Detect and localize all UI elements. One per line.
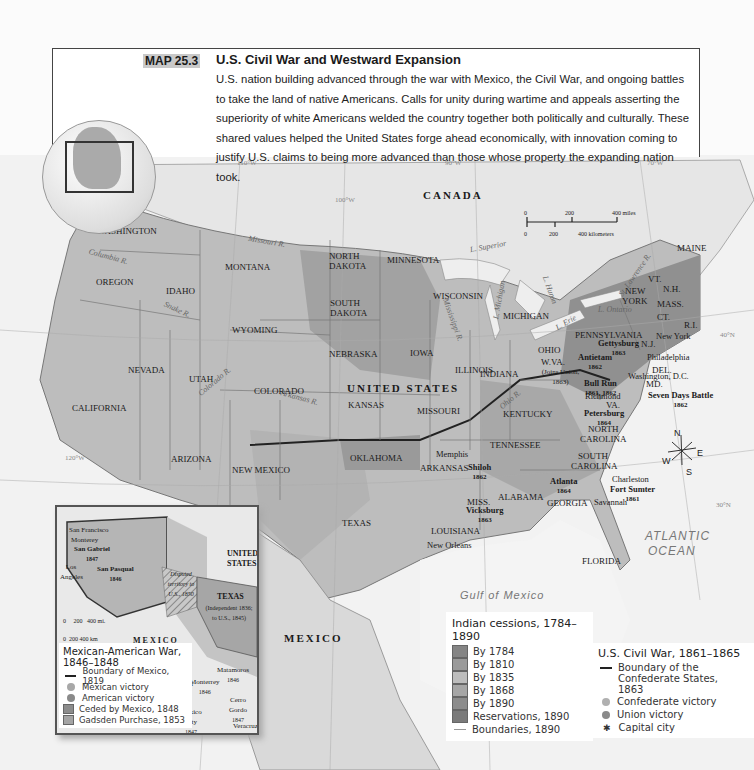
state-kentucky: KENTUCKY (503, 409, 553, 419)
inset-legend-american-victory: American victory (63, 692, 188, 703)
state-rhode-island: R.I. (684, 320, 698, 330)
state-colorado: COLORADO (254, 386, 304, 396)
state-oregon: OREGON (96, 277, 134, 287)
inset-san-gabriel: San Gabriel1847 (74, 544, 110, 564)
label-gulf-of-mexico: Gulf of Mexico (460, 590, 544, 600)
state-indiana: INDIANA (480, 369, 519, 379)
inset-legend-boundary: Boundary of Mexico, 1819 (63, 670, 188, 681)
gadsden-swatch (63, 715, 74, 725)
inset-monterrey: Monterrey1846 (190, 677, 220, 697)
inset-matamoros: Matamoros1846 (217, 665, 249, 685)
legend-cession-1784: By 1784 (452, 645, 587, 658)
meridian-90w: 90°W (445, 158, 461, 168)
state-new-mexico: NEW MEXICO (232, 465, 290, 475)
legend-boundaries: Boundaries, 1890 (452, 723, 587, 736)
parallel-40n: 40°N (720, 330, 735, 340)
legend-indian-cessions: Indian cessions, 1784–1890 By 1784 By 18… (446, 612, 593, 741)
legend-reservations: Reservations, 1890 (452, 710, 587, 723)
state-massachusetts: MASS. (657, 299, 684, 309)
state-new-york-line2: YORK (622, 296, 648, 306)
map-description: U.S. nation building advanced through th… (216, 70, 696, 187)
scale-km-400: 400 kilometers (578, 229, 614, 239)
city-new-york: New York (656, 331, 690, 341)
legend-cession-1835: By 1835 (452, 671, 587, 684)
state-california: CALIFORNIA (72, 403, 127, 413)
lake-ontario: L. Ontario (598, 305, 632, 315)
state-wyoming: WYOMING (232, 325, 278, 335)
battle-shiloh: Shiloh1862 (468, 462, 491, 482)
city-charleston: Charleston (612, 474, 649, 484)
state-louisiana: LOUISIANA (431, 526, 480, 536)
state-vermont: VT. (648, 274, 662, 284)
map-title: U.S. Civil War and Westward Expansion (216, 52, 461, 67)
state-texas: TEXAS (342, 518, 371, 528)
meridian-70w: 70°W (647, 158, 663, 168)
state-kansas: KANSAS (348, 400, 384, 410)
inset-texas: TEXAS (217, 592, 244, 602)
state-tennessee: TENNESSEE (490, 440, 541, 450)
meridian-110w: 110°W (237, 158, 257, 168)
map-number-tag: MAP 25.3 (143, 54, 200, 68)
battle-bull-run: Bull Run1861, 1862 (584, 378, 617, 398)
legend-cession-1868: By 1868 (452, 684, 587, 697)
legend-civil-war: U.S. Civil War, 1861–1865 Boundary of th… (592, 643, 754, 738)
legend-cession-1890: By 1890 (452, 697, 587, 710)
inset-scale-miles: 0 200 400 mi. (63, 616, 105, 626)
boundary-line-icon (65, 675, 76, 677)
inset-legend-ceded: Ceded by Mexico, 1848 (63, 703, 188, 714)
legend-civil-war-title: U.S. Civil War, 1861–1865 (598, 647, 748, 660)
compass-w: W (662, 456, 671, 466)
inset-states-line2: STATES (227, 559, 257, 569)
compass-s: S (686, 467, 692, 477)
swatch-1868 (452, 684, 468, 697)
swatch-reservations (452, 710, 468, 723)
scale-mile-0: 0 (524, 208, 527, 218)
battle-seven-days: Seven Days Battle1862 (648, 390, 713, 410)
state-arizona: ARIZONA (171, 454, 212, 464)
legend-cession-1810: By 1810 (452, 658, 587, 671)
state-iowa: IOWA (410, 348, 434, 358)
legend-capital-city: ✱Capital city (598, 721, 748, 734)
state-ohio: OHIO (538, 345, 561, 355)
label-canada: CANADA (423, 190, 483, 200)
inset-san-pasqual: San Pasqual1846 (97, 564, 134, 584)
swatch-1784 (452, 645, 468, 658)
inset-disputed-territory: Disputed territory to U.S., 1850 (164, 569, 198, 599)
locator-globe (42, 120, 156, 234)
city-memphis: Memphis (436, 449, 468, 459)
state-south-carolina-line2: CAROLINA (571, 461, 618, 471)
city-new-orleans: New Orleans (427, 540, 472, 550)
battle-antietam: Antietam1862 (578, 352, 612, 372)
label-ocean: OCEAN (648, 546, 696, 556)
swatch-1810 (452, 658, 468, 671)
state-minnesota: MINNESOTA (387, 255, 439, 265)
state-oklahoma: OKLAHOMA (350, 453, 403, 463)
state-alabama: ALABAMA (498, 492, 544, 502)
state-georgia: GEORGIA (547, 498, 588, 508)
state-arkansas: ARKANSAS (420, 463, 469, 473)
scale-mile-200: 200 (565, 208, 574, 218)
state-west-virginia: W.VA. (541, 357, 565, 367)
label-atlantic: ATLANTIC (645, 531, 710, 541)
label-united-states: UNITED STATES (347, 383, 459, 393)
legend-cessions-title: Indian cessions, 1784–1890 (452, 617, 587, 643)
inset-veracruz: Veracruz (233, 721, 258, 731)
compass-n: N (674, 428, 681, 438)
scale-km-200: 200 (549, 229, 558, 239)
inset-united-line1: UNITED (227, 549, 258, 559)
inset-los-angeles: Los Angeles (60, 562, 82, 582)
inset-legend: Mexican-American War, 1846–1848 Boundary… (59, 643, 192, 728)
american-victory-icon (67, 694, 75, 702)
state-florida: FLORIDA (582, 556, 621, 566)
state-missouri: MISSOURI (417, 406, 460, 416)
state-north-carolina-line2: CAROLINA (580, 434, 627, 444)
parallel-30n: 30°N (716, 500, 731, 510)
swatch-1835 (452, 671, 468, 684)
battle-atlanta: Atlanta1864 (550, 476, 577, 496)
state-connecticut: CT. (657, 312, 670, 322)
state-michigan: MICHIGAN (503, 311, 549, 321)
state-idaho: IDAHO (166, 286, 195, 296)
boundary-1890-line-icon (454, 729, 466, 730)
legend-confederate-victory: Confederate victory (598, 695, 748, 708)
state-south-carolina-line1: SOUTH (578, 451, 608, 461)
